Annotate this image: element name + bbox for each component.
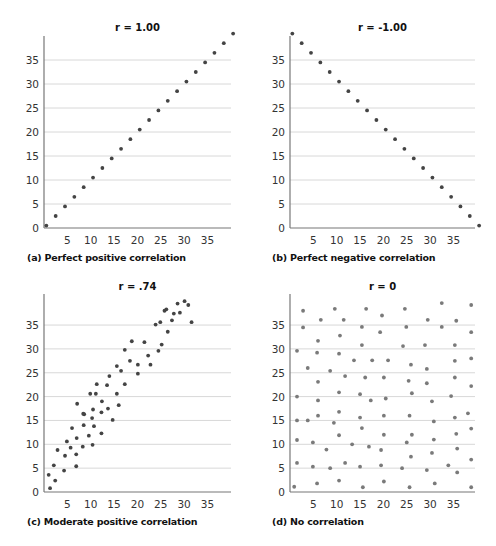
- scatter-plot-b: r = -1.00051015202530355101520253035: [248, 0, 496, 273]
- y-tick-label: 0: [278, 486, 285, 498]
- data-point: [469, 330, 473, 334]
- data-point: [453, 416, 457, 420]
- data-point: [53, 479, 57, 483]
- data-point: [100, 399, 104, 403]
- data-point: [360, 343, 364, 347]
- y-tick-label: 10: [272, 174, 285, 186]
- y-tick-label: 5: [278, 198, 285, 210]
- data-point: [54, 214, 58, 218]
- data-point: [459, 205, 463, 209]
- data-point: [454, 319, 458, 323]
- data-point: [157, 109, 161, 113]
- data-point: [222, 41, 226, 45]
- y-tick-label: 30: [272, 343, 285, 355]
- y-tick-label: 35: [26, 319, 39, 331]
- data-point: [318, 61, 322, 65]
- data-point: [403, 147, 407, 151]
- data-point: [337, 479, 341, 483]
- data-point: [52, 463, 56, 467]
- data-point: [111, 418, 115, 422]
- data-point: [81, 445, 85, 449]
- data-point: [328, 369, 332, 373]
- data-point: [367, 445, 371, 449]
- data-point: [425, 381, 429, 385]
- data-point: [401, 344, 405, 348]
- data-point: [337, 433, 341, 437]
- x-tick-label: 20: [377, 234, 390, 246]
- data-point: [466, 411, 470, 415]
- data-point: [333, 307, 337, 311]
- x-tick-label: 30: [177, 234, 190, 246]
- data-point: [160, 343, 164, 347]
- y-tick-label: 10: [26, 174, 39, 186]
- data-point: [128, 137, 132, 141]
- data-point: [360, 426, 364, 430]
- data-point: [374, 118, 378, 122]
- data-point: [316, 399, 320, 403]
- data-point: [136, 372, 140, 376]
- data-point: [316, 380, 320, 384]
- chart-title: r = 0: [369, 281, 396, 292]
- data-point: [328, 466, 332, 470]
- x-tick-label: 20: [131, 234, 144, 246]
- data-point: [469, 427, 473, 431]
- data-point: [426, 318, 430, 322]
- y-tick-label: 20: [26, 126, 39, 138]
- data-point: [82, 423, 86, 427]
- y-tick-label: 25: [272, 367, 285, 379]
- data-point: [363, 376, 367, 380]
- data-point: [369, 399, 373, 403]
- data-point: [143, 340, 147, 344]
- data-point: [469, 458, 473, 462]
- data-point: [432, 438, 436, 442]
- y-tick-label: 20: [26, 391, 39, 403]
- y-tick-label: 35: [272, 319, 285, 331]
- data-point: [166, 99, 170, 103]
- data-point: [110, 157, 114, 161]
- data-point: [477, 224, 481, 228]
- x-tick-label: 10: [84, 498, 97, 510]
- data-point: [382, 376, 386, 380]
- data-point: [382, 414, 386, 418]
- data-point: [360, 325, 364, 329]
- data-point: [149, 363, 153, 367]
- y-tick-label: 5: [32, 198, 39, 210]
- data-point: [382, 433, 386, 437]
- data-point: [91, 443, 95, 447]
- scatter-plot-a: r = 1.00051015202530355101520253035: [0, 0, 248, 273]
- data-point: [63, 205, 67, 209]
- y-tick-label: 25: [26, 102, 39, 114]
- data-point: [47, 473, 51, 477]
- data-point: [432, 420, 436, 424]
- scatter-plot-d: r = 0051015202530355101520253035: [248, 273, 496, 546]
- y-tick-label: 35: [272, 54, 285, 66]
- data-point: [425, 468, 429, 472]
- data-point: [410, 433, 414, 437]
- data-point: [425, 367, 429, 371]
- x-tick-label: 20: [377, 498, 390, 510]
- data-point: [128, 359, 132, 363]
- data-point: [94, 392, 98, 396]
- data-point: [91, 408, 95, 412]
- data-point: [346, 89, 350, 93]
- y-tick-label: 20: [272, 126, 285, 138]
- y-tick-label: 30: [26, 343, 39, 355]
- data-point: [62, 469, 66, 473]
- x-tick-label: 10: [84, 234, 97, 246]
- data-point: [332, 421, 336, 425]
- data-point: [350, 442, 354, 446]
- data-point: [213, 51, 217, 55]
- y-tick-label: 25: [272, 102, 285, 114]
- data-point: [440, 325, 444, 329]
- data-point: [408, 414, 412, 418]
- chart-title: r = -1.00: [358, 22, 407, 33]
- data-point: [164, 307, 168, 311]
- data-point: [337, 390, 341, 394]
- data-point: [185, 80, 189, 84]
- data-point: [72, 195, 76, 199]
- data-point: [365, 109, 369, 113]
- data-point: [105, 383, 109, 387]
- data-point: [316, 414, 320, 418]
- data-point: [295, 419, 299, 423]
- data-point: [146, 354, 150, 358]
